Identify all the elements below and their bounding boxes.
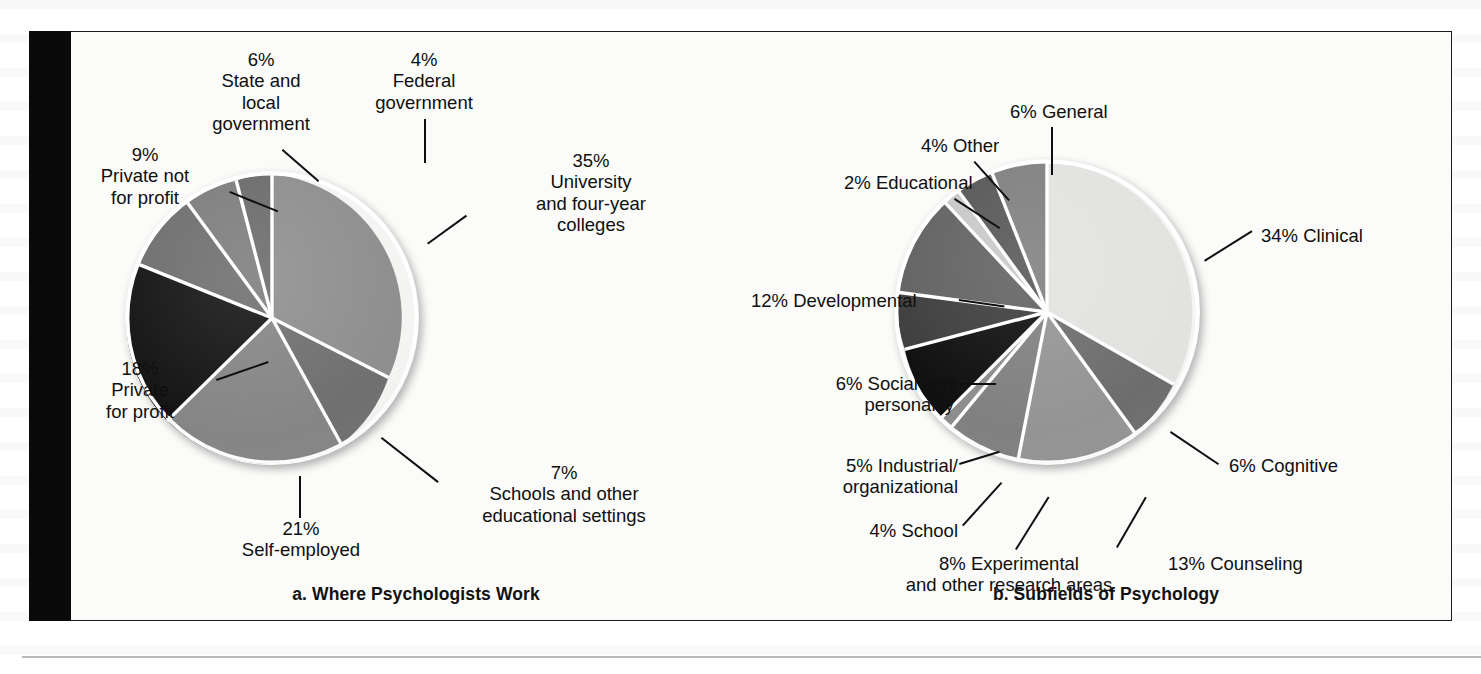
panel-b-caption: b. Subfields of Psychology bbox=[761, 584, 1451, 605]
leader-federal-government bbox=[424, 119, 426, 163]
chapter-tab-bar bbox=[29, 31, 71, 621]
panel-a-caption: a. Where Psychologists Work bbox=[71, 584, 761, 605]
leader-experimental-and-other-research-areas bbox=[1015, 496, 1049, 549]
label-general: 6% General bbox=[1010, 101, 1190, 122]
label-university-and-four-year-colleges: 35% University and four-year colleges bbox=[466, 150, 716, 236]
label-counseling: 13% Counseling bbox=[1168, 553, 1368, 574]
leader-school bbox=[962, 482, 1002, 526]
label-cognitive: 6% Cognitive bbox=[1229, 455, 1419, 476]
label-school: 4% School bbox=[752, 520, 958, 541]
label-self-employed: 21% Self-employed bbox=[201, 518, 401, 561]
label-private-for-profit: 18% Private for profit bbox=[57, 358, 223, 422]
leader-social-and-personality bbox=[954, 383, 996, 385]
label-state-and-local-government: 6% State and local government bbox=[176, 49, 346, 135]
leader-clinical bbox=[1204, 230, 1252, 261]
leader-cognitive bbox=[1170, 431, 1219, 465]
label-federal-government: 4% Federal government bbox=[344, 49, 504, 113]
figure-page: 6% State and local government 4% Federal… bbox=[0, 0, 1481, 674]
leader-industrial-organizational bbox=[959, 451, 1000, 465]
pie-b-svg bbox=[894, 159, 1200, 465]
label-schools-and-other-educational-settings: 7% Schools and other educational setting… bbox=[434, 462, 694, 526]
label-social-and-personality: 6% Social and personality bbox=[756, 373, 954, 416]
label-clinical: 34% Clinical bbox=[1261, 225, 1441, 246]
leader-university-and-four-year-colleges bbox=[427, 215, 467, 245]
leader-counseling bbox=[1116, 497, 1146, 548]
leader-self-employed bbox=[299, 476, 301, 518]
label-other: 4% Other bbox=[921, 135, 1071, 156]
panel-a-where-psychologists-work: 6% State and local government 4% Federal… bbox=[71, 31, 761, 621]
leader-schools-and-other-educational-settings bbox=[381, 437, 439, 483]
label-industrial-organizational: 5% Industrial/ organizational bbox=[752, 455, 958, 498]
label-private-not-for-profit: 9% Private not for profit bbox=[65, 144, 225, 208]
panel-b-subfields-of-psychology: 6% General 4% Other 2% Educational 12% D… bbox=[761, 31, 1451, 621]
pie-chart-subfields-of-psychology bbox=[894, 159, 1200, 465]
label-educational: 2% Educational bbox=[844, 172, 1034, 193]
label-developmental: 12% Developmental bbox=[751, 290, 971, 311]
page-bottom-rule bbox=[22, 656, 1481, 658]
